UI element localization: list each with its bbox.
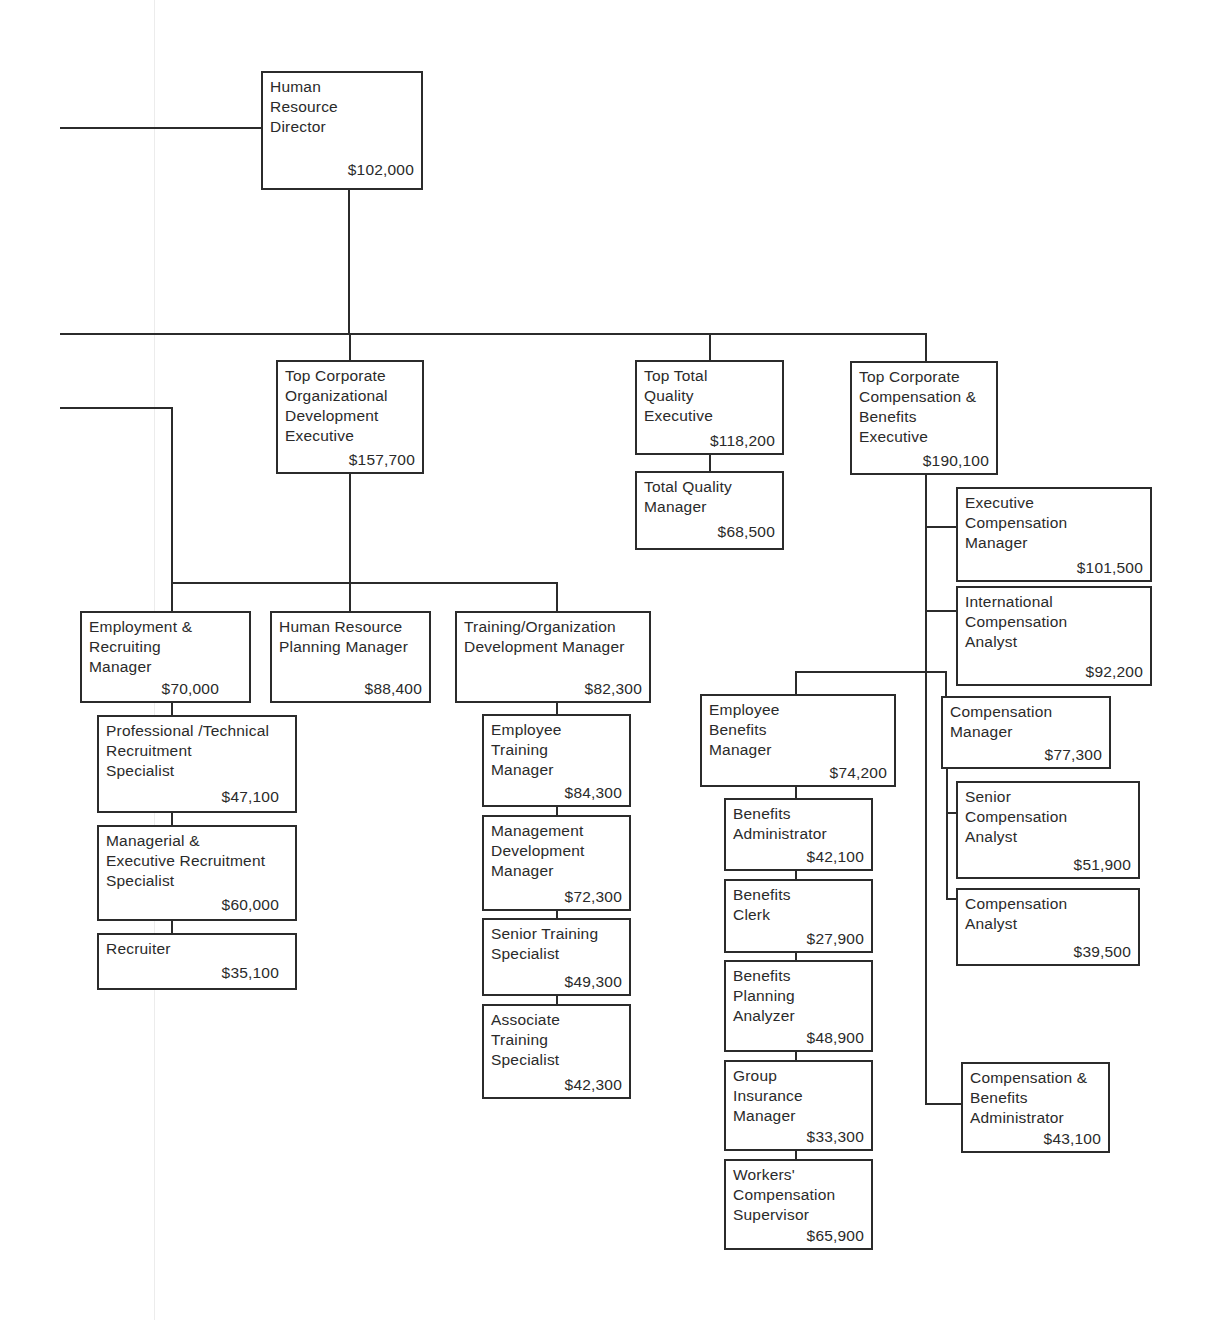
connector [709, 454, 711, 472]
position-title: Top Total Quality Executive [644, 366, 776, 426]
position-title: Benefits Clerk [733, 885, 865, 925]
connector [795, 671, 797, 696]
position-title: Recruiter [106, 939, 289, 959]
connector [709, 333, 711, 361]
salary-label: $77,300 [1045, 745, 1102, 765]
org-box-emp-benefits-mgr: Employee Benefits Manager $74,200 [700, 694, 896, 787]
position-title: Management Development Manager [491, 821, 623, 881]
connector [171, 920, 173, 934]
position-title: Workers' Compensation Supervisor [733, 1165, 865, 1225]
position-title: Compensation & Benefits Administrator [970, 1068, 1102, 1128]
org-box-emp-training-mgr: Employee Training Manager $84,300 [482, 714, 631, 807]
position-title: Benefits Planning Analyzer [733, 966, 865, 1026]
org-box-org-dev-exec: Top Corporate Organizational Development… [276, 360, 424, 474]
org-box-workers-comp-sup: Workers' Compensation Supervisor $65,900 [724, 1159, 873, 1250]
salary-label: $48,900 [807, 1028, 864, 1048]
salary-label: $35,100 [222, 963, 279, 983]
position-title: Compensation Analyst [965, 894, 1132, 934]
connector [946, 767, 948, 900]
position-title: Benefits Administrator [733, 804, 865, 844]
org-box-comp-ben-admin: Compensation & Benefits Administrator $4… [961, 1062, 1110, 1153]
org-box-tq-manager: Total Quality Manager $68,500 [635, 471, 784, 550]
position-title: Senior Training Specialist [491, 924, 623, 964]
org-box-benefits-planning: Benefits Planning Analyzer $48,900 [724, 960, 873, 1052]
connector [925, 1103, 963, 1105]
org-box-training-org-dev-mgr: Training/Organization Development Manage… [455, 611, 651, 703]
position-title: Professional /Technical Recruitment Spec… [106, 721, 289, 781]
salary-label: $43,100 [1044, 1129, 1101, 1149]
org-box-benefits-admin: Benefits Administrator $42,100 [724, 798, 873, 871]
connector [556, 582, 558, 612]
position-title: Executive Compensation Manager [965, 493, 1144, 553]
connector [171, 582, 558, 584]
salary-label: $68,500 [718, 522, 775, 542]
org-box-comp-ben-exec: Top Corporate Compensation & Benefits Ex… [850, 361, 998, 475]
position-title: Employee Training Manager [491, 720, 623, 780]
salary-label: $65,900 [807, 1226, 864, 1246]
salary-label: $27,900 [807, 929, 864, 949]
position-title: Senior Compensation Analyst [965, 787, 1132, 847]
position-title: Human Resource Planning Manager [279, 617, 423, 657]
salary-label: $42,100 [807, 847, 864, 867]
position-title: Associate Training Specialist [491, 1010, 623, 1070]
salary-label: $42,300 [565, 1075, 622, 1095]
salary-label: $49,300 [565, 972, 622, 992]
org-box-emp-recruit-mgr: Employment & Recruiting Manager $70,000 [80, 611, 251, 703]
org-box-group-insurance-mgr: Group Insurance Manager $33,300 [724, 1060, 873, 1151]
position-title: Training/Organization Development Manage… [464, 617, 643, 657]
salary-label: $102,000 [348, 160, 414, 180]
connector [171, 812, 173, 826]
org-box-recruiter: Recruiter $35,100 [97, 933, 297, 990]
salary-label: $84,300 [565, 783, 622, 803]
org-box-senior-comp-analyst: Senior Compensation Analyst $51,900 [956, 781, 1140, 879]
org-box-senior-training-spec: Senior Training Specialist $49,300 [482, 918, 631, 996]
connector [60, 127, 262, 129]
connector [60, 407, 173, 409]
org-box-hr-planning-mgr: Human Resource Planning Manager $88,400 [270, 611, 431, 703]
org-box-exec-comp-mgr: Executive Compensation Manager $101,500 [956, 487, 1152, 582]
position-title: Group Insurance Manager [733, 1066, 865, 1126]
position-title: Top Corporate Organizational Development… [285, 366, 416, 446]
salary-label: $88,400 [365, 679, 422, 699]
salary-label: $82,300 [585, 679, 642, 699]
connector [348, 189, 350, 334]
position-title: International Compensation Analyst [965, 592, 1144, 652]
org-box-mgr-exec-recruit: Managerial & Executive Recruitment Speci… [97, 825, 297, 921]
salary-label: $118,200 [710, 431, 775, 451]
salary-label: $72,300 [565, 887, 622, 907]
org-box-assoc-training-spec: Associate Training Specialist $42,300 [482, 1004, 631, 1099]
salary-label: $92,200 [1086, 662, 1143, 682]
position-title: Human Resource Director [270, 77, 415, 137]
position-title: Total Quality Manager [644, 477, 776, 517]
salary-label: $51,900 [1074, 855, 1131, 875]
connector [925, 333, 927, 362]
salary-label: $60,000 [222, 895, 279, 915]
connector [927, 610, 958, 612]
salary-label: $157,700 [349, 450, 415, 470]
org-box-benefits-clerk: Benefits Clerk $27,900 [724, 879, 873, 953]
salary-label: $74,200 [830, 763, 887, 783]
position-title: Managerial & Executive Recruitment Speci… [106, 831, 289, 891]
org-box-mgmt-dev-mgr: Management Development Manager $72,300 [482, 815, 631, 911]
position-title: Employment & Recruiting Manager [89, 617, 243, 677]
connector [927, 526, 958, 528]
connector [349, 473, 351, 612]
org-box-comp-analyst: Compensation Analyst $39,500 [956, 888, 1140, 966]
position-title: Top Corporate Compensation & Benefits Ex… [859, 367, 990, 447]
connector [60, 333, 927, 335]
position-title: Compensation Manager [950, 702, 1103, 742]
org-box-intl-comp-analyst: International Compensation Analyst $92,2… [956, 586, 1152, 686]
connector [925, 473, 927, 1104]
connector [795, 671, 947, 673]
salary-label: $39,500 [1074, 942, 1131, 962]
position-title: Employee Benefits Manager [709, 700, 888, 760]
connector [349, 333, 351, 361]
org-box-prof-tech-recruit: Professional /Technical Recruitment Spec… [97, 715, 297, 813]
connector [171, 702, 173, 716]
salary-label: $190,100 [923, 451, 989, 471]
connector [945, 671, 947, 697]
salary-label: $101,500 [1077, 558, 1143, 578]
org-box-comp-mgr: Compensation Manager $77,300 [941, 696, 1111, 769]
org-box-hr-director: Human Resource Director $102,000 [261, 71, 423, 190]
salary-label: $70,000 [162, 679, 219, 699]
